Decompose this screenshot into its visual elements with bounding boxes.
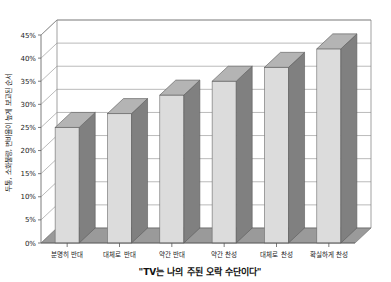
y-tick-label: 35% xyxy=(20,78,36,86)
x-tick-label: 대체로 찬성 xyxy=(260,250,292,259)
x-tick-label: 대체로 반대 xyxy=(103,250,135,259)
x-tick-label: 분명히 반대 xyxy=(51,250,83,259)
bar-chart-3d: 0%5%10%15%20%25%30%35%40%45% 분명히 반대대체로 반… xyxy=(0,0,391,282)
bar xyxy=(107,99,147,243)
chart-container: 0%5%10%15%20%25%30%35%40%45% 분명히 반대대체로 반… xyxy=(0,0,391,282)
y-tick-label: 40% xyxy=(20,55,36,63)
bar xyxy=(264,52,304,243)
y-tick-label: 5% xyxy=(25,216,36,224)
y-tick-label: 25% xyxy=(20,124,36,132)
bar-side-face xyxy=(289,52,305,243)
y-tick-label: 10% xyxy=(20,193,36,201)
bar-front-face xyxy=(107,114,131,243)
bar-front-face xyxy=(160,95,184,243)
bar xyxy=(55,112,95,243)
bar-front-face xyxy=(212,81,236,243)
bar-side-face xyxy=(132,99,148,243)
bar-front-face xyxy=(264,67,288,243)
bar-side-face xyxy=(236,66,252,243)
bar-side-face xyxy=(341,34,357,243)
bar-front-face xyxy=(55,127,79,243)
bar-side-face xyxy=(79,112,95,243)
y-tick-label: 20% xyxy=(20,147,36,155)
y-axis-title: 두통, 소화불량, 변비율이 높게 보고된 순서 xyxy=(4,74,13,192)
y-tick-label: 15% xyxy=(20,170,36,178)
y-tick-label: 30% xyxy=(20,101,36,109)
bar-side-face xyxy=(184,80,200,243)
chart-subtitle: "TV는 나의 주된 오락 수단이다" xyxy=(138,266,261,277)
x-tick-label: 약간 반대 xyxy=(159,250,185,259)
bar xyxy=(212,66,252,243)
y-tick-label: 0% xyxy=(25,240,36,248)
x-tick-label: 확실하게 찬성 xyxy=(310,250,348,259)
plot-left-wall xyxy=(41,20,57,243)
bar-front-face xyxy=(317,49,341,243)
y-tick-label: 45% xyxy=(20,32,36,40)
x-tick-label: 약간 찬성 xyxy=(211,250,237,259)
bar xyxy=(317,34,357,243)
bar xyxy=(160,80,200,243)
